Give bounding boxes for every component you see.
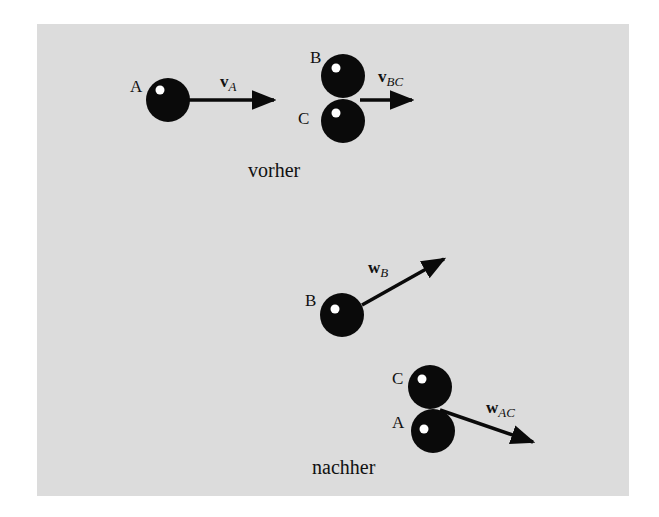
ball-c-after	[408, 365, 452, 409]
ball-a-after	[411, 409, 455, 453]
ball-c-before	[321, 99, 365, 143]
ball-b-before	[321, 54, 365, 98]
label-b-before: B	[310, 48, 321, 67]
after-scene: B C A wB wAC nachher	[305, 258, 533, 478]
label-a-before: A	[130, 77, 143, 96]
label-va: vA	[220, 72, 237, 94]
before-scene: A B C vA vBC vorher	[130, 48, 412, 181]
label-c-after: C	[392, 369, 403, 388]
ball-a-before	[146, 78, 190, 122]
label-c-before: C	[298, 109, 309, 128]
collision-diagram: A B C vA vBC vorher B C A wB	[0, 0, 659, 517]
ball-b-after	[320, 293, 364, 337]
label-wb: wB	[368, 258, 388, 280]
label-vbc: vBC	[378, 67, 403, 89]
caption-before: vorher	[248, 159, 301, 181]
label-b-after: B	[305, 291, 316, 310]
label-wac: wAC	[486, 398, 515, 420]
label-a-after: A	[392, 413, 405, 432]
caption-after: nachher	[312, 456, 376, 478]
